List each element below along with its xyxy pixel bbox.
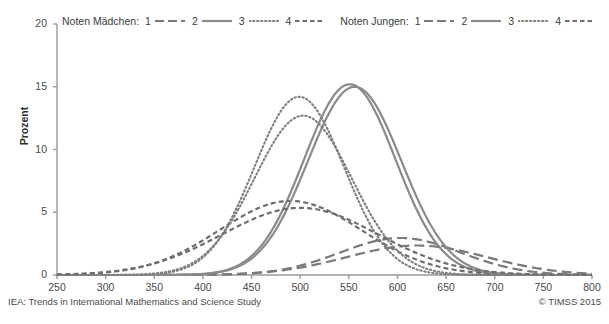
series-line [57,208,592,275]
series-line [57,84,592,275]
x-tick-label: 750 [526,281,560,293]
series-line [57,116,592,275]
x-tick-label: 600 [380,281,414,293]
series-line [57,246,592,275]
chart-footer: IEA: Trends in International Mathematics… [8,296,601,307]
footer-source: IEA: Trends in International Mathematics… [8,296,261,307]
y-tick-label: 0 [23,268,47,280]
y-tick-label: 20 [23,17,47,29]
series-line [57,87,592,275]
x-tick-label: 500 [283,281,317,293]
footer-copyright: © TIMSS 2015 [539,296,601,307]
series-line [57,238,592,275]
x-tick-label: 700 [478,281,512,293]
x-tick-label: 300 [89,281,123,293]
x-tick-label: 350 [137,281,171,293]
plot-area [0,0,609,324]
y-tick-label: 10 [23,143,47,155]
x-tick-label: 550 [332,281,366,293]
y-tick-label: 5 [23,205,47,217]
x-tick-label: 450 [235,281,269,293]
chart-figure: Noten Mädchen: 1 2 3 4 [0,0,609,324]
x-tick-label: 650 [429,281,463,293]
x-tick-label: 400 [186,281,220,293]
x-tick-label: 250 [40,281,74,293]
y-tick-label: 15 [23,80,47,92]
x-tick-label: 800 [575,281,609,293]
